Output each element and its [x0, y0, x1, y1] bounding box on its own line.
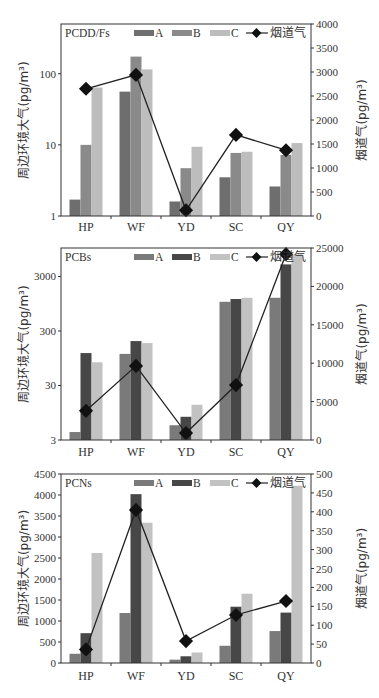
bar-c-sc — [242, 594, 253, 663]
bar-a-sc — [220, 302, 231, 440]
y-tick-label: 10 — [45, 139, 57, 151]
y-axis-title: 周边环境大气(pg/m³) — [16, 285, 31, 402]
legend-swatch — [134, 254, 154, 260]
chart-svg: 11010005001000150020002500300035004000HP… — [0, 0, 379, 232]
y-tick-label: 1000 — [34, 615, 57, 627]
bar-b-sc — [231, 299, 242, 440]
legend-label: A — [155, 27, 164, 39]
legend-swatch — [172, 480, 192, 486]
legend-marker — [252, 478, 262, 488]
x-tick-label: WF — [127, 669, 145, 683]
diamond-marker — [179, 634, 193, 648]
bar-c-sc — [242, 298, 253, 440]
y2-tick-label: 250 — [316, 563, 333, 575]
y-tick-label: 500 — [40, 636, 57, 648]
flue-gas-line — [86, 510, 286, 649]
y2-tick-label: 150 — [316, 600, 333, 612]
legend-label: 烟道气 — [270, 249, 306, 264]
y-tick-label: 30 — [45, 379, 57, 391]
bar-a-hp — [70, 654, 81, 663]
bar-a-wf — [120, 354, 131, 440]
legend-label: A — [155, 477, 164, 489]
y2-tick-label: 500 — [316, 186, 333, 198]
y2-tick-label: 5000 — [316, 396, 339, 408]
bar-a-qy — [270, 631, 281, 663]
legend-label: 烟道气 — [270, 475, 306, 490]
y2-tick-label: 25000 — [316, 242, 344, 254]
bar-b-wf — [131, 341, 142, 440]
chart-svg: 33030030000500010000150002000025000HPWFY… — [0, 232, 379, 460]
y2-tick-label: 50 — [316, 638, 328, 650]
y2-tick-label: 1000 — [316, 162, 339, 174]
legend-label: A — [155, 251, 164, 263]
y2-axis-title: 烟道气(pg/m³) — [354, 528, 369, 609]
y2-axis-title: 烟道气(pg/m³) — [354, 79, 369, 160]
y-tick-label: 0 — [51, 657, 57, 669]
diamond-marker — [79, 82, 93, 96]
x-tick-label: YD — [177, 445, 195, 459]
bar-a-qy — [270, 186, 281, 216]
bar-a-sc — [220, 177, 231, 216]
x-tick-label: QY — [277, 669, 295, 683]
bar-b-qy — [281, 264, 292, 440]
y-tick-label: 4500 — [34, 468, 57, 480]
chart-svg: 0500100015002000250030003500400045000501… — [0, 460, 379, 698]
x-tick-label: QY — [277, 445, 295, 459]
bar-a-wf — [120, 613, 131, 663]
y-tick-label: 300 — [40, 325, 57, 337]
y-axis-title: 周边环境大气(pg/m³) — [16, 510, 31, 627]
panel-title: PCBs — [65, 251, 92, 263]
legend-marker — [252, 252, 262, 262]
legend-label: B — [193, 477, 201, 489]
bar-c-qy — [292, 486, 303, 663]
y-tick-label: 1 — [51, 210, 57, 222]
legend-swatch — [134, 30, 154, 36]
y2-tick-label: 300 — [316, 544, 333, 556]
bar-c-wf — [142, 69, 153, 216]
y-tick-label: 3000 — [34, 270, 57, 282]
chart-pcbs: 33030030000500010000150002000025000HPWFY… — [0, 232, 379, 460]
y2-tick-label: 450 — [316, 487, 333, 499]
x-tick-label: WF — [127, 220, 145, 232]
y2-tick-label: 4000 — [316, 18, 339, 30]
legend-swatch — [210, 30, 230, 36]
y-tick-label: 3000 — [34, 531, 57, 543]
y2-tick-label: 2500 — [316, 90, 339, 102]
bar-b-qy — [281, 155, 292, 216]
bar-b-yd — [181, 656, 192, 663]
y-tick-label: 2500 — [34, 552, 57, 564]
legend-swatch — [210, 480, 230, 486]
bar-c-wf — [142, 343, 153, 440]
panel-title: PCDD/Fs — [65, 27, 110, 39]
x-tick-label: YD — [177, 669, 195, 683]
y2-tick-label: 100 — [316, 619, 333, 631]
legend-swatch — [172, 30, 192, 36]
y-tick-label: 100 — [40, 68, 57, 80]
y-tick-label: 3 — [51, 434, 57, 446]
panel-title: PCNs — [65, 477, 92, 489]
legend-label: 烟道气 — [270, 25, 306, 40]
bar-c-yd — [192, 147, 203, 216]
bar-c-sc — [242, 152, 253, 216]
y2-tick-label: 3500 — [316, 42, 339, 54]
x-tick-label: HP — [78, 669, 94, 683]
chart-pcns: 0500100015002000250030003500400045000501… — [0, 460, 379, 698]
bar-c-yd — [192, 653, 203, 664]
y2-tick-label: 0 — [316, 210, 322, 222]
y2-axis-title: 烟道气(pg/m³) — [354, 303, 369, 384]
bar-a-hp — [70, 200, 81, 216]
y-tick-label: 3500 — [34, 510, 57, 522]
bar-c-hp — [92, 88, 103, 216]
legend-label: B — [193, 27, 201, 39]
legend-label: C — [231, 251, 239, 263]
bar-c-wf — [142, 523, 153, 663]
y-tick-label: 4000 — [34, 489, 57, 501]
y2-tick-label: 500 — [316, 468, 333, 480]
x-tick-label: HP — [78, 445, 94, 459]
x-tick-label: SC — [229, 220, 244, 232]
y-tick-label: 1500 — [34, 594, 57, 606]
diamond-marker — [229, 128, 243, 142]
y2-tick-label: 10000 — [316, 357, 344, 369]
legend-label: B — [193, 251, 201, 263]
x-tick-label: WF — [127, 445, 145, 459]
